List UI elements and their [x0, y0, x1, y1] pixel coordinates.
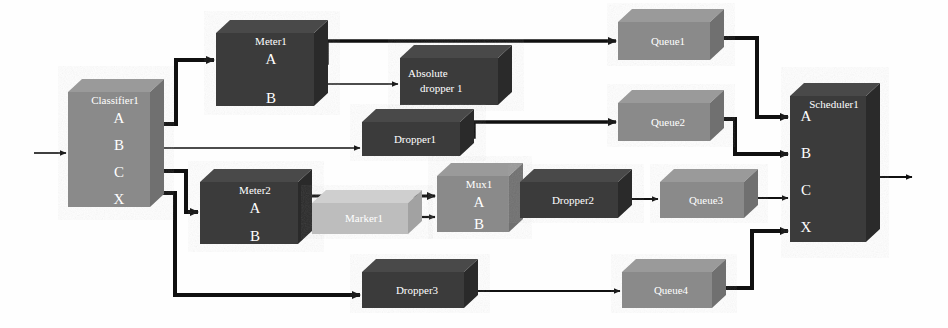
block-label-queue2: Queue2 [651, 116, 685, 128]
port-scheduler1-x[interactable]: X [801, 219, 812, 235]
block-face-top [520, 169, 632, 182]
port-scheduler1-c[interactable]: C [801, 182, 811, 198]
block-label-meter1: Meter1 [255, 35, 287, 47]
block-face-top [618, 9, 724, 22]
port-scheduler1-b[interactable]: B [801, 145, 811, 161]
block-face-top [622, 259, 726, 272]
block-face-top [312, 190, 422, 203]
block-diagram-svg: Classifier1ABCXMeter1ABAbsolutedropper 1… [0, 0, 948, 328]
block-label-dropper2: Dropper2 [552, 194, 594, 206]
block-label-scheduler1: Scheduler1 [809, 98, 858, 110]
block-label-queue1: Queue1 [651, 35, 685, 47]
block-label-dropper3: Dropper3 [396, 284, 439, 296]
wire-dropper1-to-queue2 [460, 122, 616, 137]
port-meter1-a[interactable]: A [266, 51, 277, 67]
block-face-top [400, 45, 512, 58]
block-label-marker1: Marker1 [345, 212, 383, 224]
block-face-top [437, 163, 523, 176]
port-meter2-a[interactable]: A [250, 200, 261, 216]
block-label-mux1: Mux1 [466, 178, 492, 190]
block-face-side [866, 83, 880, 242]
block-face-front [68, 92, 150, 207]
block-label-dropper1: Dropper1 [394, 133, 436, 145]
block-label-classifier1: Classifier1 [91, 94, 139, 106]
block-face-top [660, 169, 758, 182]
port-mux1-b[interactable]: B [474, 216, 484, 232]
port-classifier1-a[interactable]: A [114, 110, 125, 126]
block-label-meter2: Meter2 [239, 184, 271, 196]
port-classifier1-c[interactable]: C [114, 164, 124, 180]
port-classifier1-b[interactable]: B [114, 137, 124, 153]
block-face-top [362, 109, 474, 122]
block-face-top [68, 79, 164, 92]
block-face-top [362, 259, 478, 272]
block-label-queue3: Queue3 [689, 194, 724, 206]
block-face-top [790, 83, 880, 96]
port-mux1-a[interactable]: A [474, 194, 485, 210]
port-meter2-b[interactable]: B [250, 228, 260, 244]
block-face-side [150, 79, 164, 207]
block-face-top [216, 20, 328, 33]
block-label-queue4: Queue4 [654, 284, 689, 296]
block-face-top [618, 90, 724, 103]
block-face-side [298, 169, 312, 244]
port-scheduler1-a[interactable]: A [801, 108, 812, 124]
diagram-canvas: Classifier1ABCXMeter1ABAbsolutedropper 1… [0, 0, 948, 328]
port-classifier1-x[interactable]: X [114, 191, 125, 207]
block-face-top [200, 169, 312, 182]
block-face-side [314, 20, 328, 106]
port-meter1-b[interactable]: B [266, 90, 276, 106]
